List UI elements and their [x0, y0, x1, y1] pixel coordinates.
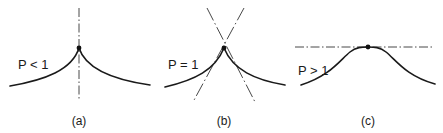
panel-a-condition-label: P < 1	[18, 57, 48, 72]
panel-b-caption: (b)	[217, 114, 232, 128]
panel-c-condition-label: P > 1	[298, 63, 328, 78]
panel-a-caption: (a)	[72, 114, 87, 128]
panel-b-curve-right	[224, 48, 285, 85]
panel-b: P = 1 (b)	[165, 8, 285, 128]
figure: P < 1 (a) P = 1 (b) P > 1 (c)	[0, 0, 443, 133]
panel-b-condition-label: P = 1	[168, 57, 198, 72]
panel-a: P < 1 (a)	[10, 8, 150, 128]
panel-c: P > 1 (c)	[295, 45, 435, 128]
panel-b-singular-point	[222, 46, 227, 51]
panel-a-curve-right	[79, 48, 150, 85]
panel-c-peak-point	[366, 45, 371, 50]
panel-b-tangent-line-2	[193, 8, 244, 102]
panel-b-tangent-line-1	[207, 8, 255, 102]
panel-c-caption: (c)	[361, 114, 375, 128]
panel-a-singular-point	[77, 46, 82, 51]
